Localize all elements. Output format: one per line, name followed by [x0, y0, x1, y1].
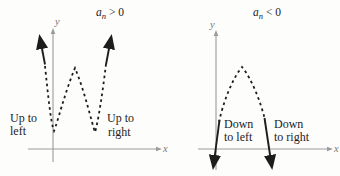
up-to-left-label-line2: left: [10, 124, 27, 138]
left-dashed-curve: [45, 64, 106, 132]
right-y-axis-label: y: [209, 19, 215, 30]
right-down-arrow-left-end: [215, 120, 220, 158]
left-title-condition: > 0: [109, 6, 124, 18]
right-title: an< 0: [253, 6, 281, 21]
left-title-subscript: n: [102, 11, 106, 21]
left-title: an> 0: [96, 6, 124, 21]
right-title-condition: < 0: [266, 6, 281, 18]
right-dashed-curve: [219, 67, 265, 122]
right-graph-panel: an< 0 y x Down to left Down to right: [198, 6, 339, 170]
up-to-left-label-line1: Up to: [10, 111, 37, 125]
right-title-subscript: n: [259, 11, 263, 21]
right-x-axis-label: x: [333, 143, 339, 154]
down-to-left-label-line2: to left: [224, 130, 253, 144]
left-y-axis-label: y: [54, 16, 60, 27]
down-to-left-label-line1: Down: [224, 117, 253, 131]
left-x-axis-label: x: [162, 143, 168, 154]
end-behavior-figure: an> 0 y x Up to left Up to right an< 0 y…: [0, 0, 340, 176]
up-to-right-label-line2: right: [108, 125, 131, 139]
down-to-right-label-line2: to right: [274, 130, 310, 144]
right-down-arrow-right-end: [265, 118, 271, 158]
left-graph-panel: an> 0 y x Up to left Up to right: [10, 6, 168, 162]
down-to-right-label-line1: Down: [274, 117, 303, 131]
end-behavior-diagram: an> 0 y x Up to left Up to right an< 0 y…: [0, 0, 340, 176]
left-up-arrow-right-end: [106, 46, 110, 65]
up-to-right-label-line1: Up to: [107, 111, 134, 125]
left-up-arrow-left-end: [42, 46, 46, 65]
